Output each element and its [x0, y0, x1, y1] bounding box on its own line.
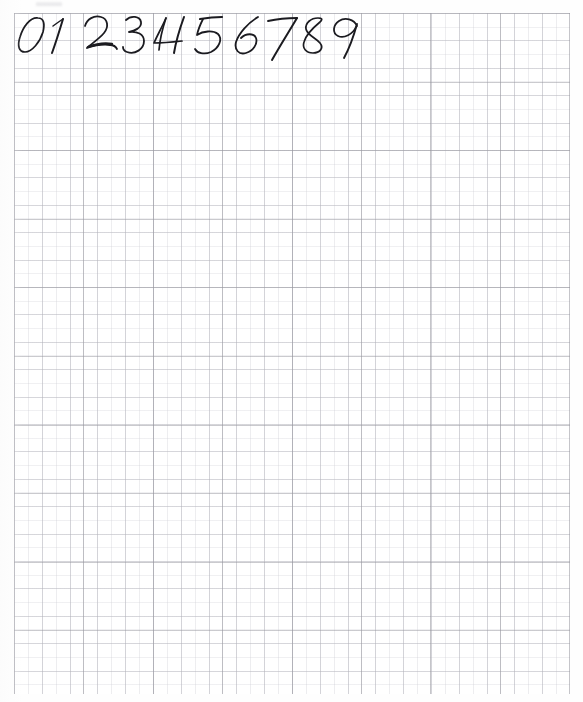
digit-text-seven: 7: [266, 50, 267, 51]
scan-artifact-speck: [36, 2, 62, 6]
digit-text-four: 4: [157, 50, 158, 51]
scanned-page: 0 1 2 3 4 5 6 7 8 9: [0, 0, 583, 702]
digit-text-one: 1: [50, 50, 51, 51]
graph-paper-grid: [14, 13, 570, 694]
digit-text-nine: 9: [330, 50, 331, 51]
digit-text-eight: 8: [300, 50, 301, 51]
digit-text-five: 5: [194, 50, 195, 51]
digit-text-two: 2: [84, 50, 85, 51]
digit-text-three: 3: [123, 50, 124, 51]
digit-text-zero: 0: [17, 50, 18, 51]
digit-text-six: 6: [234, 50, 235, 51]
